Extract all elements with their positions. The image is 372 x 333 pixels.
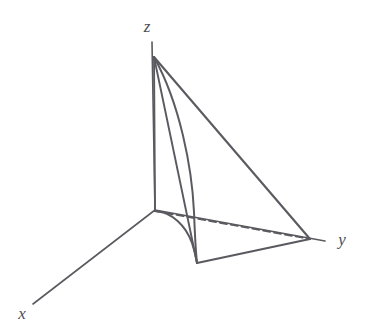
figure-canvas: z y x — [0, 0, 372, 333]
edge-apex-to-y-corner — [154, 57, 310, 239]
hidden-edge-origin-to-y-corner — [155, 211, 310, 239]
diagram-svg: z y x — [0, 0, 372, 333]
edge-apex-to-origin-vertical — [154, 57, 155, 210]
edge-front-bottom-to-y-corner — [197, 239, 310, 263]
axis-label-x: x — [17, 304, 26, 323]
axis-x-line — [33, 210, 155, 304]
edge-apex-to-front-bottom — [154, 57, 197, 263]
axis-label-z: z — [143, 17, 151, 36]
axis-label-y: y — [336, 230, 346, 249]
